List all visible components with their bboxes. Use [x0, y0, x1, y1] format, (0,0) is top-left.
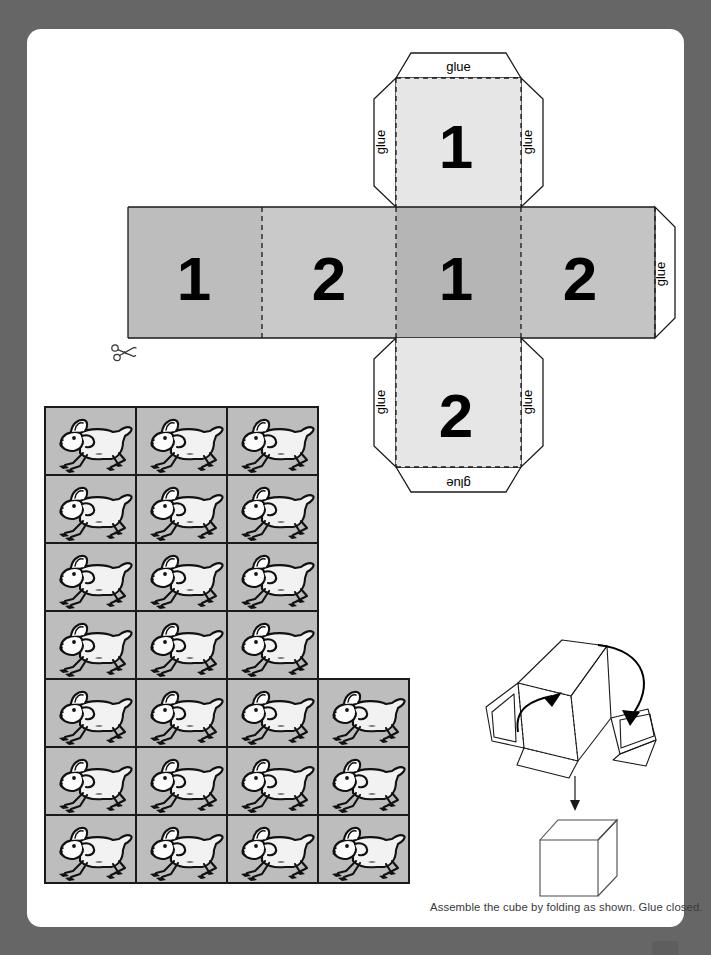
fold-arrow-right-head: [622, 710, 640, 726]
sheep-grid-row: [44, 406, 410, 476]
sheep-grid-row: [44, 746, 410, 816]
sheep-tile: [226, 746, 319, 816]
sheep-tile: [135, 814, 228, 884]
sheep-grid-row: [44, 814, 410, 884]
sheep-tile: [135, 542, 228, 612]
fold-box-right-panel: [571, 646, 611, 761]
sheep-tile: [226, 474, 319, 544]
fold-flap-front: [517, 748, 578, 778]
sheep-tile: [226, 814, 319, 884]
sheep-tile: [317, 814, 410, 884]
sheep-tile: [317, 746, 410, 816]
sheep-tile: [44, 406, 137, 476]
finished-cube-top: [540, 820, 617, 840]
fold-down-arrow-head: [570, 800, 580, 811]
sheep-tile: [135, 610, 228, 680]
sheep-tile: [317, 678, 410, 748]
sheep-tile: [135, 678, 228, 748]
sheep-tile: [226, 542, 319, 612]
page-bottom-artifact: [652, 941, 678, 955]
finished-cube-front: [540, 840, 598, 896]
fold-arrow-right-curve: [598, 645, 644, 718]
assembly-instruction-text: Assemble the cube by folding as shown. G…: [430, 901, 685, 913]
fold-arrow-left-head: [544, 692, 562, 707]
finished-cube-side: [598, 820, 617, 896]
fold-arrow-left-curve: [517, 696, 552, 732]
fold-box-base: [518, 683, 578, 761]
sheep-tile: [226, 678, 319, 748]
sheep-tile: [226, 610, 319, 680]
sheep-grid-row: [44, 678, 410, 748]
sheep-grid-row: [44, 474, 410, 544]
sheep-tile: [135, 406, 228, 476]
sheep-grid-row: [44, 610, 410, 680]
folding-instruction-diagram: [470, 608, 680, 898]
sheep-tile: [135, 474, 228, 544]
sheep-tile: [44, 814, 137, 884]
sheep-grid-row: [44, 542, 410, 612]
fold-flap-left-inner: [492, 694, 516, 742]
scissors-icon: [110, 341, 140, 365]
sheep-tile: [135, 746, 228, 816]
sheep-tile: [226, 406, 319, 476]
sheep-tile: [44, 542, 137, 612]
sheep-tile: [44, 678, 137, 748]
sheep-tile: [44, 474, 137, 544]
fold-box-back-panel: [518, 640, 607, 696]
sheep-tile: [44, 746, 137, 816]
sheep-sticker-grid: [44, 406, 410, 884]
sheep-tile: [44, 610, 137, 680]
